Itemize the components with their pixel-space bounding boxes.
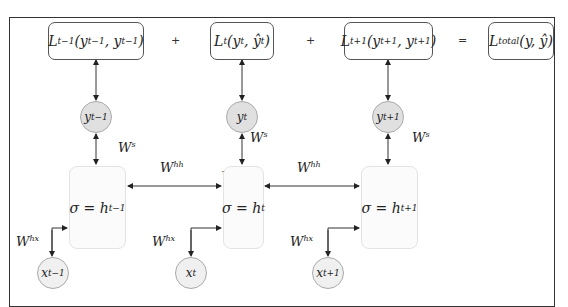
weight-sup: s <box>263 130 267 139</box>
loss-args: (y <box>74 33 87 49</box>
node-label: y <box>84 110 91 124</box>
node-label: y <box>376 110 383 124</box>
input-node-t-minus-1: xt−1 <box>37 257 69 289</box>
output-node-t-minus-1: yt−1 <box>80 101 112 133</box>
weight-sup: s <box>131 140 135 149</box>
loss-symbol: L <box>48 33 57 49</box>
node-subscript: t <box>193 268 197 278</box>
node-subscript: t+1 <box>323 268 340 278</box>
input-node-t-plus-1: xt+1 <box>312 257 344 289</box>
node-subscript: t <box>244 112 248 122</box>
weight-sup: s <box>425 130 429 139</box>
loss-subscript: t−1 <box>57 36 74 46</box>
hidden-subscript: t−1 <box>109 203 126 213</box>
loss-args-sub: t+1 <box>414 36 431 46</box>
weight-label-output: Ws <box>412 130 429 145</box>
weight-sup: hx <box>29 234 39 243</box>
loss-box-t-plus-1: Lt+1(yt+1, yt+1) <box>344 22 433 60</box>
loss-args: (y <box>367 33 380 49</box>
weight-sup: hx <box>165 234 175 243</box>
loss-args: , y <box>397 33 414 49</box>
weight-base: W <box>250 130 263 145</box>
loss-args-sub: t−1 <box>121 36 138 46</box>
loss-symbol: L <box>341 33 350 49</box>
loss-box-t-minus-1: Lt−1(yt−1, yt−1) <box>48 22 144 60</box>
hidden-label: σ = h <box>361 200 400 216</box>
weight-label-recurrent: Whh <box>160 160 184 175</box>
input-node-t: xt <box>175 257 207 289</box>
weight-label-recurrent: Whh <box>297 160 321 175</box>
loss-subscript: total <box>498 36 519 46</box>
loss-box-t: Lt(yt, ŷt) <box>210 22 274 60</box>
weight-sup: hh <box>310 160 320 169</box>
loss-args: , y <box>105 33 122 49</box>
loss-args-sub: t+1 <box>380 36 397 46</box>
equals-operator: = <box>458 34 467 47</box>
hidden-label: σ = h <box>69 200 108 216</box>
weight-base: W <box>16 234 29 249</box>
loss-args: ) <box>138 33 143 49</box>
loss-args: ) <box>431 33 436 49</box>
plus-operator: + <box>171 34 180 47</box>
plus-operator: + <box>306 34 315 47</box>
output-node-t: yt <box>226 101 258 133</box>
weight-sup: hx <box>303 234 313 243</box>
loss-symbol: L <box>214 33 223 49</box>
node-label: y <box>237 110 244 124</box>
loss-args-sub: t−1 <box>88 36 105 46</box>
node-subscript: t−1 <box>91 112 108 122</box>
node-label: x <box>316 266 323 280</box>
hidden-label: σ = h <box>222 200 261 216</box>
weight-label-input: Whx <box>290 234 313 249</box>
node-label: x <box>41 266 48 280</box>
weight-base: W <box>118 140 131 155</box>
weight-base: W <box>160 160 173 175</box>
weight-sup: hh <box>173 160 183 169</box>
hidden-state-t-plus-1: σ = ht+1 <box>361 166 418 249</box>
weight-base: W <box>152 234 165 249</box>
weight-label-output: Ws <box>250 130 267 145</box>
loss-args: ) <box>264 33 269 49</box>
node-subscript: t+1 <box>383 112 400 122</box>
node-label: x <box>186 266 193 280</box>
weight-label-input: Whx <box>152 234 175 249</box>
loss-args: (y <box>227 33 240 49</box>
loss-args: (y, ŷ) <box>519 33 553 49</box>
weight-base: W <box>290 234 303 249</box>
hidden-subscript: t <box>261 203 265 213</box>
weight-base: W <box>297 160 310 175</box>
loss-box-total: Ltotal(y, ŷ) <box>488 22 554 60</box>
hidden-state-t-minus-1: σ = ht−1 <box>69 166 126 249</box>
loss-subscript: t+1 <box>350 36 367 46</box>
weight-label-input: Whx <box>16 234 39 249</box>
hidden-subscript: t+1 <box>401 203 418 213</box>
loss-args: , ŷ <box>244 33 261 49</box>
hidden-state-t: σ = ht <box>223 166 264 249</box>
weight-label-output: Ws <box>118 140 135 155</box>
loss-symbol: L <box>489 33 498 49</box>
weight-base: W <box>412 130 425 145</box>
node-subscript: t−1 <box>48 268 65 278</box>
output-node-t-plus-1: yt+1 <box>372 101 404 133</box>
